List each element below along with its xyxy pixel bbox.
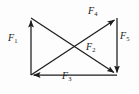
vector-label-f5: F5 bbox=[120, 31, 129, 41]
vector-label-f1: F1 bbox=[8, 33, 17, 43]
vector-label-f2-subscript: 2 bbox=[92, 46, 95, 53]
vector-label-f3: F3 bbox=[62, 71, 71, 81]
vector-f4-line bbox=[31, 20, 115, 75]
vector-label-f1-subscript: 1 bbox=[14, 37, 17, 44]
vector-label-f3-subscript: 3 bbox=[68, 75, 71, 82]
vector-f2-line bbox=[31, 18, 114, 73]
vector-label-f2: F2 bbox=[86, 42, 95, 52]
vector-label-f5-subscript: 5 bbox=[126, 35, 129, 42]
vector-label-f4: F4 bbox=[88, 6, 97, 16]
force-vector-figure: F1 F4 F5 F2 F3 bbox=[0, 0, 139, 94]
vector-label-f4-subscript: 4 bbox=[94, 10, 97, 17]
